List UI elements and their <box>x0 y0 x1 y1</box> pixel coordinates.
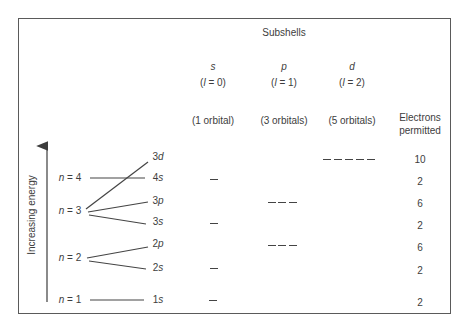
electrons-2p: 6 <box>417 242 423 254</box>
shell-label-n3: nn = 3 = 3 <box>59 205 82 217</box>
orbital-2s <box>210 268 218 269</box>
electrons-1s: 2 <box>417 297 423 309</box>
subshell-label-2p: 2p <box>152 238 163 250</box>
energy-level-lines <box>0 0 468 335</box>
increasing-energy-label: Increasing energy <box>26 175 37 255</box>
orbital-1s <box>209 300 217 301</box>
subshell-label-1s: 1s <box>153 294 164 306</box>
orbital-3s <box>210 223 218 224</box>
subshell-label-4s: 4s <box>153 172 164 184</box>
subshell-label-3d: 3d <box>152 151 163 163</box>
subshell-label-2s: 2s <box>153 262 164 274</box>
shell-label-n2: nn = 2 = 2 <box>59 252 82 264</box>
electrons-2s: 2 <box>417 265 423 277</box>
electrons-3s: 2 <box>417 220 423 232</box>
subshell-label-3p: 3p <box>152 195 163 207</box>
shell-label-n1: nn = 1 = 1 <box>59 294 82 306</box>
electrons-3d: 10 <box>414 154 425 166</box>
electrons-4s: 2 <box>417 176 423 188</box>
orbital-4s <box>210 179 218 180</box>
electrons-3p: 6 <box>417 198 423 210</box>
shell-label-n4: nn = 4 = 4 <box>59 172 82 184</box>
subshell-label-3s: 3s <box>153 216 164 228</box>
